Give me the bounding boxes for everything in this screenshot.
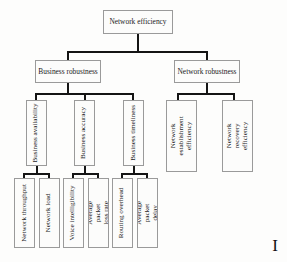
corner-mark: I — [272, 237, 278, 254]
node-label: Network establishment efficiency — [170, 117, 194, 156]
connector-accuracy-level4-bus — [72, 173, 99, 175]
node-label: Network load — [46, 194, 54, 233]
node-network-load: Network load — [39, 178, 60, 248]
node-label: Average packet loss rate — [88, 201, 109, 225]
node-label: Network efficiency — [109, 18, 166, 26]
node-label: Network robustness — [178, 68, 237, 76]
node-label: Network throughput — [21, 184, 29, 242]
node-network-throughput: Network throughput — [14, 178, 35, 248]
node-label: Network recovery efficiency — [226, 122, 250, 151]
node-network-establishment-efficiency: Network establishment efficiency — [166, 100, 197, 172]
node-business-robustness: Business robustness — [35, 60, 101, 83]
node-label: Business accuracy — [81, 107, 89, 159]
node-label: Business timeliness — [130, 105, 138, 161]
node-label: Business robustness — [38, 68, 97, 76]
node-network-recovery-efficiency: Network recovery efficiency — [222, 100, 253, 172]
connector-availability-level4-bus — [23, 173, 50, 175]
connector-root-stem — [137, 34, 139, 52]
connector-timeliness-level4-bus — [121, 173, 148, 175]
node-business-timeliness: Business timeliness — [123, 100, 144, 166]
connector-network-level3-bus — [177, 93, 235, 95]
node-label: Business availability — [33, 104, 41, 163]
diagram-canvas: Network efficiency Business robustness N… — [0, 0, 287, 262]
node-average-packet-loss-rate: Average packet loss rate — [88, 178, 109, 248]
node-network-robustness: Network robustness — [174, 60, 240, 83]
node-label: Voice intelligibility — [70, 186, 78, 241]
node-average-packet-delay: Average packet delay — [137, 178, 158, 248]
node-label: Average packet delay — [137, 201, 158, 225]
node-routing-overhead: Routing overhead — [112, 178, 133, 248]
node-network-efficiency: Network efficiency — [103, 10, 173, 34]
connector-level2-bus — [67, 51, 208, 53]
node-voice-intelligibility: Voice intelligibility — [63, 178, 84, 248]
node-business-availability: Business availability — [26, 100, 47, 166]
node-business-accuracy: Business accuracy — [74, 100, 95, 166]
node-label: Routing overhead — [119, 188, 127, 239]
